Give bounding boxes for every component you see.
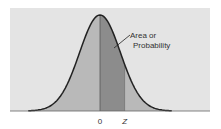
normal-distribution-chart: Area or Probability 0Z (0, 0, 221, 129)
tick-label-z: Z (121, 117, 128, 126)
tick-label-zero: 0 (98, 117, 103, 126)
annotation-line-1: Area or (130, 31, 157, 40)
annotation-line-2: Probability (133, 41, 170, 50)
